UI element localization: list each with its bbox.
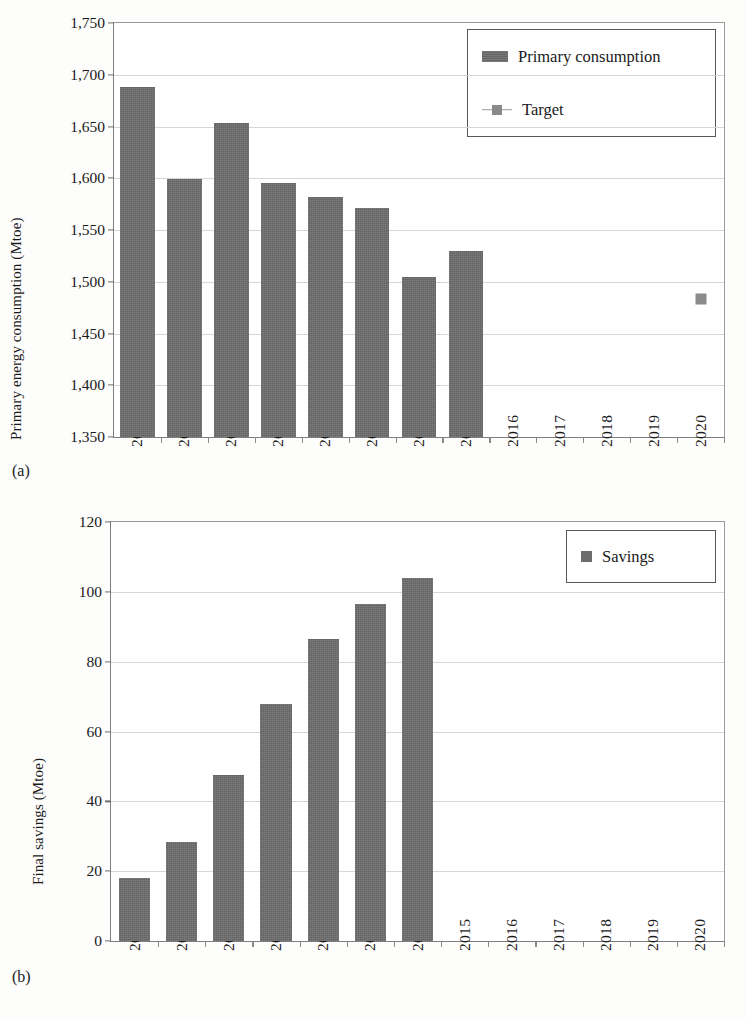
x-axis-tick-label: 2019 [644,919,662,951]
figure-two-panel-bar-charts: Primary energy consumption (Mtoe) Primar… [0,0,746,1019]
gridline [114,178,724,179]
x-axis-tick-label: 2020 [692,415,710,447]
legend-swatch-bar-icon [482,51,508,62]
x-axis-tick [442,437,443,443]
y-axis-tick-label: 1,700 [70,66,114,84]
x-axis-tick [252,941,253,947]
x-axis-tick [158,941,159,947]
x-axis-tick [396,437,397,443]
x-axis-tick [677,941,678,947]
x-axis-tick [161,437,162,443]
x-axis-tick-label: 2020 [691,919,709,951]
legend-swatch-line-marker-icon [482,104,512,115]
bar [166,842,197,942]
panel-b-legend: Savings [566,530,716,583]
bar [120,87,155,437]
y-axis-tick-label: 0 [94,932,111,950]
y-axis-tick-label: 60 [87,723,112,741]
x-axis-tick [677,437,678,443]
x-axis-tick-label: 2018 [597,919,615,951]
bar [355,208,390,437]
x-axis-tick [535,941,536,947]
y-axis-tick-label: 1,750 [70,14,114,32]
bar [402,578,433,941]
y-axis-tick-label: 1,350 [70,428,114,446]
x-axis-tick [583,941,584,947]
x-axis-tick-label: 2018 [598,415,616,447]
x-axis-tick [441,941,442,947]
x-axis-tick-label: 2015 [456,919,474,951]
bar [213,775,244,941]
bar [261,183,296,437]
bar [119,878,150,941]
y-axis-tick-label: 1,600 [70,169,114,187]
gridline [114,75,724,76]
gridline [114,127,724,128]
x-axis-tick-label: 2016 [504,415,522,447]
x-axis-tick [255,437,256,443]
x-axis-tick [208,437,209,443]
y-axis-tick-label: 40 [87,792,112,810]
target-marker [695,294,706,305]
bar [402,277,437,437]
panel-a-letter: (a) [12,462,30,480]
x-axis-tick [300,941,301,947]
x-axis-tick [583,437,584,443]
y-axis-tick-label: 120 [79,513,111,531]
legend-label-savings: Savings [602,547,654,567]
x-axis-tick-label: 2016 [503,919,521,951]
y-axis-tick-label: 1,550 [70,221,114,239]
y-axis-tick-label: 20 [87,862,112,880]
x-axis-tick [347,941,348,947]
x-axis-tick [349,437,350,443]
bar [260,704,291,941]
x-axis-tick [302,437,303,443]
x-axis-tick [724,437,725,443]
x-axis-tick [488,941,489,947]
legend-label-target: Target [522,100,564,120]
panel-a-legend: Primary consumption Target [467,29,716,137]
legend-item-target: Target [468,83,715,136]
bar [355,604,386,941]
bar [214,123,249,437]
y-axis-tick-label: 1,400 [70,376,114,394]
panel-b-y-axis-title: Final savings (Mtoe) [30,585,47,885]
legend-swatch-square-icon [581,551,592,562]
x-axis-tick [489,437,490,443]
y-axis-tick-label: 80 [87,653,112,671]
x-axis-tick [630,437,631,443]
y-axis-tick-label: 100 [79,583,111,601]
x-axis-tick-label: 2017 [550,919,568,951]
legend-label-primary-consumption: Primary consumption [518,47,661,67]
y-axis-tick-label: 1,450 [70,325,114,343]
bar [449,251,484,437]
legend-item-savings: Savings [567,531,715,582]
panel-b-plot-area: Savings 12010080604020020082009201020112… [110,521,725,942]
x-axis-tick [536,437,537,443]
panel-a-plot-area: Primary consumption Target 1,7501,7001,6… [113,22,725,438]
x-axis-tick [724,941,725,947]
panel-a-y-axis-title: Primary energy consumption (Mtoe) [8,60,25,440]
panel-b-letter: (b) [12,968,31,986]
x-axis-tick-label: 2019 [645,415,663,447]
gridline [114,230,724,231]
y-axis-tick-label: 1,500 [70,273,114,291]
x-axis-tick-label: 2017 [551,415,569,447]
y-axis-tick-label: 1,650 [70,118,114,136]
x-axis-tick [205,941,206,947]
x-axis-tick [630,941,631,947]
bar [167,179,202,437]
x-axis-tick [394,941,395,947]
bar [308,197,343,437]
bar [308,639,339,941]
